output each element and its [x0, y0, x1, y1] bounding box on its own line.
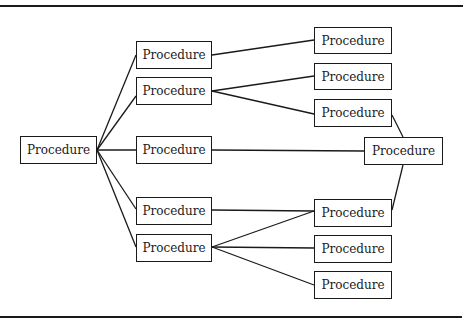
node-col2-d: Procedure — [136, 197, 212, 225]
node-label: Procedure — [27, 143, 90, 157]
node-root: Procedure — [20, 136, 97, 164]
node-col2-a: Procedure — [136, 41, 212, 69]
node-col2-b: Procedure — [136, 77, 212, 105]
node-label: Procedure — [321, 34, 384, 48]
node-col3-d: Procedure — [314, 199, 392, 227]
node-label: Procedure — [321, 106, 384, 120]
edge-c2b-c3c — [212, 91, 314, 114]
edge-c2e-c3e — [212, 247, 314, 248]
edge-c2e-c3f — [212, 247, 314, 285]
node-col3-a: Procedure — [314, 27, 392, 54]
edge-root-c2a — [97, 55, 136, 150]
node-col3-f: Procedure — [314, 271, 392, 299]
edge-c2b-c3b — [212, 76, 314, 91]
node-col3-e: Procedure — [314, 235, 392, 263]
node-col2-c: Procedure — [136, 136, 212, 164]
edge-c2a-c3a — [212, 40, 314, 55]
node-label: Procedure — [321, 70, 384, 84]
edge-c2c-right — [212, 150, 364, 151]
edge-c2d-c3d — [212, 210, 314, 211]
node-label: Procedure — [142, 241, 205, 255]
edge-root-c2e — [97, 150, 136, 247]
node-label: Procedure — [142, 84, 205, 98]
edge-c3c-right — [392, 115, 403, 137]
node-label: Procedure — [142, 143, 205, 157]
node-label: Procedure — [142, 204, 205, 218]
node-label: Procedure — [321, 242, 384, 256]
node-label: Procedure — [372, 144, 435, 158]
node-right: Procedure — [364, 137, 443, 165]
node-label: Procedure — [321, 206, 384, 220]
node-col2-e: Procedure — [136, 234, 212, 262]
edge-c2e-c3d — [212, 211, 314, 247]
node-col3-b: Procedure — [314, 63, 392, 90]
edge-c3d-right — [392, 165, 403, 210]
node-col3-c: Procedure — [314, 99, 392, 127]
node-label: Procedure — [142, 48, 205, 62]
bottom-rule — [0, 316, 462, 318]
node-label: Procedure — [321, 278, 384, 292]
